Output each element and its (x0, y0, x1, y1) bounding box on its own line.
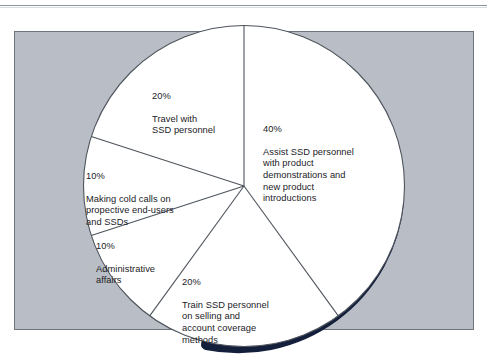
pie-slice-label-cold-calls: 10% Making cold calls on propective end-… (86, 159, 216, 229)
pie-slice-text-train: Train SSD personnel on selling and accou… (182, 300, 269, 345)
pie-slice-percent-assist: 40% (263, 124, 391, 136)
pie-slice-label-assist: 40% Assist SSD personnel with product de… (263, 112, 391, 205)
pie-slice-text-assist: Assist SSD personnel with product demons… (263, 147, 354, 203)
page-divider-rule-secondary (0, 7, 487, 8)
pie-slice-text-cold-calls: Making cold calls on propective end-user… (86, 194, 174, 227)
pie-slice-text-travel: Travel with SSD personnel (152, 114, 215, 136)
pie-slice-percent-train: 20% (182, 277, 306, 289)
pie-slice-text-administrative: Administrative affairs (96, 264, 155, 286)
pie-slice-label-train: 20% Train SSD personnel on selling and a… (182, 265, 306, 346)
figure-page: 20% Travel with SSD personnel 40% Assist… (0, 0, 487, 362)
pie-slice-percent-administrative: 10% (96, 241, 201, 253)
pie-slice-percent-cold-calls: 10% (86, 171, 216, 183)
page-divider-rule (0, 5, 487, 6)
pie-slice-label-travel: 20% Travel with SSD personnel (152, 79, 262, 137)
pie-slice-percent-travel: 20% (152, 91, 262, 103)
